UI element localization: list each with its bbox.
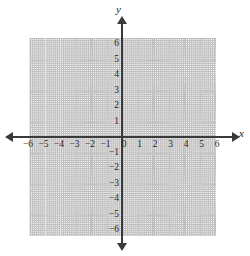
- x-tick-label: 3: [163, 139, 179, 149]
- y-tick-label: 3: [103, 85, 119, 95]
- x-tick-label: 5: [194, 139, 210, 149]
- x-tick-label: 6: [209, 139, 225, 149]
- coordinate-plane-figure: x y −6−5−4−3−2−10123456 654321−1−2−3−4−5…: [0, 0, 250, 256]
- y-axis-name: y: [116, 3, 121, 15]
- x-axis-line: [12, 136, 234, 138]
- grid-line-horizontal: [30, 184, 216, 185]
- y-tick-label: −6: [103, 224, 119, 234]
- y-tick-label: 4: [103, 69, 119, 79]
- y-tick-label: 5: [103, 54, 119, 64]
- y-axis-down-arrow-icon: [117, 243, 127, 251]
- y-tick-label: −4: [103, 193, 119, 203]
- grid-line-horizontal: [30, 44, 216, 45]
- grid-line-horizontal: [30, 230, 216, 231]
- grid-line-horizontal: [30, 122, 216, 123]
- x-tick-label: −6: [20, 139, 36, 149]
- y-tick-label: −3: [103, 178, 119, 188]
- grid-line-horizontal: [30, 199, 216, 200]
- x-tick-label: −3: [67, 139, 83, 149]
- grid-line-horizontal: [30, 153, 216, 154]
- y-axis-up-arrow-icon: [117, 16, 127, 24]
- x-tick-label: −2: [82, 139, 98, 149]
- grid-line-horizontal: [30, 168, 216, 169]
- y-tick-label: −2: [103, 162, 119, 172]
- y-tick-label: 2: [103, 100, 119, 110]
- y-tick-label: 1: [103, 116, 119, 126]
- x-tick-label: 1: [132, 139, 148, 149]
- x-axis-name: x: [239, 127, 244, 139]
- x-axis-left-arrow-icon: [5, 132, 13, 142]
- clipped-top-text: [36, 0, 216, 5]
- x-tick-label: 2: [147, 139, 163, 149]
- y-tick-label: −1: [103, 147, 119, 157]
- y-tick-label: −5: [103, 209, 119, 219]
- x-tick-label: −5: [36, 139, 52, 149]
- y-tick-label: 6: [103, 38, 119, 48]
- grid-line-horizontal: [30, 91, 216, 92]
- grid-line-horizontal: [30, 106, 216, 107]
- x-tick-label: −4: [51, 139, 67, 149]
- grid-line-horizontal: [30, 60, 216, 61]
- y-axis-line: [121, 22, 123, 246]
- grid-line-horizontal: [30, 215, 216, 216]
- grid-line-horizontal: [30, 75, 216, 76]
- x-tick-label: 4: [178, 139, 194, 149]
